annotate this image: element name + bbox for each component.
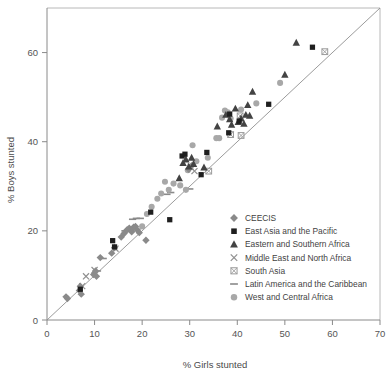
marker-boxed-x bbox=[231, 268, 237, 274]
marker-triangle bbox=[232, 105, 239, 112]
marker-circle bbox=[149, 204, 155, 210]
marker-square bbox=[226, 130, 231, 135]
y-tick-label: 40 bbox=[27, 136, 38, 147]
marker-circle bbox=[190, 142, 196, 148]
data-points bbox=[62, 39, 327, 303]
x-tick-label: 60 bbox=[327, 328, 338, 339]
marker-circle bbox=[253, 100, 259, 106]
marker-triangle bbox=[214, 123, 221, 130]
marker-square bbox=[148, 210, 153, 215]
marker-triangle bbox=[244, 101, 251, 108]
legend-item-ceecis[interactable]: CEECIS bbox=[230, 213, 277, 223]
legend-item-middle-east-and-north-africa[interactable]: Middle East and North Africa bbox=[231, 253, 352, 263]
marker-circle bbox=[171, 181, 177, 187]
legend-item-label: Eastern and Southern Africa bbox=[245, 239, 350, 249]
legend-item-label: West and Central Africa bbox=[245, 292, 333, 302]
marker-square bbox=[167, 217, 172, 222]
chart-canvas: 0102030405060700204060 CEECISEast Asia a… bbox=[0, 0, 390, 375]
marker-circle bbox=[154, 196, 160, 202]
marker-circle bbox=[139, 223, 145, 229]
marker-square bbox=[231, 228, 237, 234]
legend-item-label: South Asia bbox=[245, 266, 285, 276]
legend-item-latin-america-and-the-caribbean[interactable]: Latin America and the Caribbean bbox=[230, 279, 367, 289]
y-tick-label: 60 bbox=[27, 47, 38, 58]
marker-circle bbox=[231, 294, 237, 300]
x-tick-label: 20 bbox=[137, 328, 148, 339]
chart-legend: CEECISEast Asia and the PacificEastern a… bbox=[230, 213, 367, 302]
legend-item-label: Middle East and North Africa bbox=[245, 253, 351, 263]
marker-triangle bbox=[200, 164, 207, 171]
x-tick-label: 70 bbox=[375, 328, 386, 339]
legend-item-west-and-central-africa[interactable]: West and Central Africa bbox=[231, 292, 333, 302]
legend-item-label: Latin America and the Caribbean bbox=[245, 279, 367, 289]
marker-diamond bbox=[230, 214, 238, 222]
marker-circle bbox=[162, 179, 168, 185]
marker-square bbox=[310, 45, 315, 50]
marker-diamond bbox=[97, 254, 104, 261]
marker-triangle bbox=[293, 39, 300, 46]
marker-circle bbox=[177, 182, 183, 188]
marker-x bbox=[231, 254, 237, 260]
y-axis-title: % Boys stunted bbox=[5, 137, 16, 203]
marker-square bbox=[182, 152, 187, 157]
y-tick-label: 0 bbox=[33, 315, 38, 326]
x-tick-label: 50 bbox=[280, 328, 291, 339]
x-tick-label: 30 bbox=[184, 328, 195, 339]
legend-item-east-asia-and-the-pacific[interactable]: East Asia and the Pacific bbox=[231, 226, 337, 236]
marker-triangle bbox=[249, 88, 256, 95]
legend-item-label: East Asia and the Pacific bbox=[245, 226, 337, 236]
marker-square bbox=[199, 172, 204, 177]
marker-circle bbox=[277, 80, 283, 86]
marker-circle bbox=[158, 190, 164, 196]
marker-triangle bbox=[281, 71, 288, 78]
marker-square bbox=[78, 287, 83, 292]
x-axis-title: % Girls stunted bbox=[183, 359, 247, 370]
marker-square bbox=[237, 119, 242, 124]
marker-x bbox=[83, 273, 89, 279]
marker-square bbox=[266, 102, 271, 107]
marker-circle bbox=[216, 135, 222, 141]
marker-circle bbox=[238, 107, 244, 113]
marker-diamond bbox=[142, 237, 149, 244]
marker-circle bbox=[205, 155, 211, 161]
scatter-chart: 0102030405060700204060 CEECISEast Asia a… bbox=[0, 0, 390, 375]
legend-item-eastern-and-southern-africa[interactable]: Eastern and Southern Africa bbox=[230, 239, 350, 249]
marker-square bbox=[204, 150, 209, 155]
marker-boxed-x bbox=[322, 49, 328, 55]
marker-triangle bbox=[176, 174, 183, 181]
marker-circle bbox=[183, 187, 189, 193]
x-tick-label: 0 bbox=[44, 328, 49, 339]
marker-boxed-x bbox=[238, 133, 244, 139]
x-tick-label: 10 bbox=[89, 328, 100, 339]
marker-triangle bbox=[230, 240, 238, 247]
marker-circle bbox=[166, 187, 172, 193]
marker-x bbox=[191, 168, 197, 174]
marker-square bbox=[112, 244, 117, 249]
series-eastern-and-southern-africa bbox=[176, 39, 300, 181]
y-tick-label: 20 bbox=[27, 225, 38, 236]
marker-square bbox=[227, 111, 232, 116]
legend-item-label: CEECIS bbox=[245, 213, 277, 223]
legend-item-south-asia[interactable]: South Asia bbox=[231, 266, 285, 276]
marker-triangle bbox=[188, 154, 195, 161]
marker-square bbox=[110, 238, 115, 243]
x-tick-label: 40 bbox=[232, 328, 243, 339]
